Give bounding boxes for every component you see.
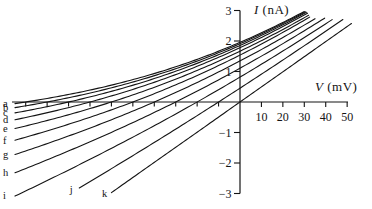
- curve-label-e: e: [3, 123, 8, 134]
- x-tick-label: 40: [320, 110, 332, 124]
- y-tick-label: −2: [219, 156, 232, 170]
- curve-label-f: f: [3, 135, 7, 146]
- voltage-unit: (mV): [327, 79, 357, 94]
- x-tick-label: 50: [341, 110, 353, 124]
- x-tick-label: 10: [255, 110, 267, 124]
- x-tick-label: 20: [277, 110, 289, 124]
- y-tick-label: −3: [219, 187, 232, 201]
- current-symbol: I: [254, 2, 259, 17]
- x-tick-label: 30: [298, 110, 310, 124]
- iv-curve-b: [15, 12, 305, 108]
- voltage-symbol: V: [315, 79, 323, 94]
- curve-label-k: k: [102, 188, 108, 199]
- curve-label-g: g: [3, 149, 9, 160]
- current-unit: (nA): [263, 2, 290, 17]
- x-axis-title: V (mV): [315, 79, 357, 95]
- iv-curve-c: [15, 12, 306, 113]
- curve-label-i: i: [3, 190, 6, 201]
- iv-curve-figure: 321−1−2−31020304050abcdefghijk I (nA) V …: [0, 0, 372, 209]
- y-tick-label: −1: [219, 126, 232, 140]
- curve-label-h: h: [3, 167, 9, 178]
- iv-curve-a: [15, 11, 304, 103]
- y-tick-label: 3: [226, 4, 232, 18]
- curve-label-j: j: [69, 184, 73, 195]
- y-axis-title: I (nA): [254, 2, 289, 18]
- iv-curve-i: [15, 20, 332, 197]
- iv-chart-canvas: 321−1−2−31020304050abcdefghijk: [0, 0, 372, 209]
- iv-curve-j: [79, 20, 343, 188]
